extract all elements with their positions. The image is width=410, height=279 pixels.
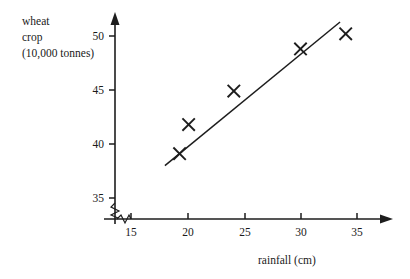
y-tick-label-35: 35	[93, 192, 105, 204]
data-point-marker	[340, 28, 352, 40]
y-tick-label-50: 50	[93, 30, 105, 42]
y-axis-title-line-2: crop	[22, 31, 43, 44]
y-tick-label-40: 40	[93, 138, 105, 150]
line-of-best-fit	[165, 22, 340, 166]
x-tick-label-35: 35	[351, 226, 363, 238]
data-point-marker	[294, 43, 306, 55]
y-axis-title-line-1: wheat	[22, 15, 50, 27]
y-axis-arrowhead	[111, 12, 120, 25]
data-point-marker	[173, 148, 185, 160]
y-axis-title-line-3: (10,000 tonnes)	[22, 47, 94, 60]
data-point-marker	[182, 118, 194, 130]
x-tick-label-30: 30	[295, 226, 307, 238]
x-axis-title: rainfall (cm)	[258, 254, 316, 267]
y-tick-label-45: 45	[93, 84, 105, 96]
x-tick-label-20: 20	[182, 226, 194, 238]
data-point-markers	[173, 28, 352, 160]
x-tick-label-25: 25	[239, 226, 251, 238]
x-tick-label-15: 15	[125, 226, 137, 238]
data-point-marker	[228, 85, 240, 97]
x-axis-arrowhead	[380, 215, 393, 224]
plot-canvas: wheat crop (10,000 tonnes) 50 45 40 35 1…	[0, 0, 410, 279]
scatter-plot-figure: wheat crop (10,000 tonnes) 50 45 40 35 1…	[0, 0, 410, 279]
